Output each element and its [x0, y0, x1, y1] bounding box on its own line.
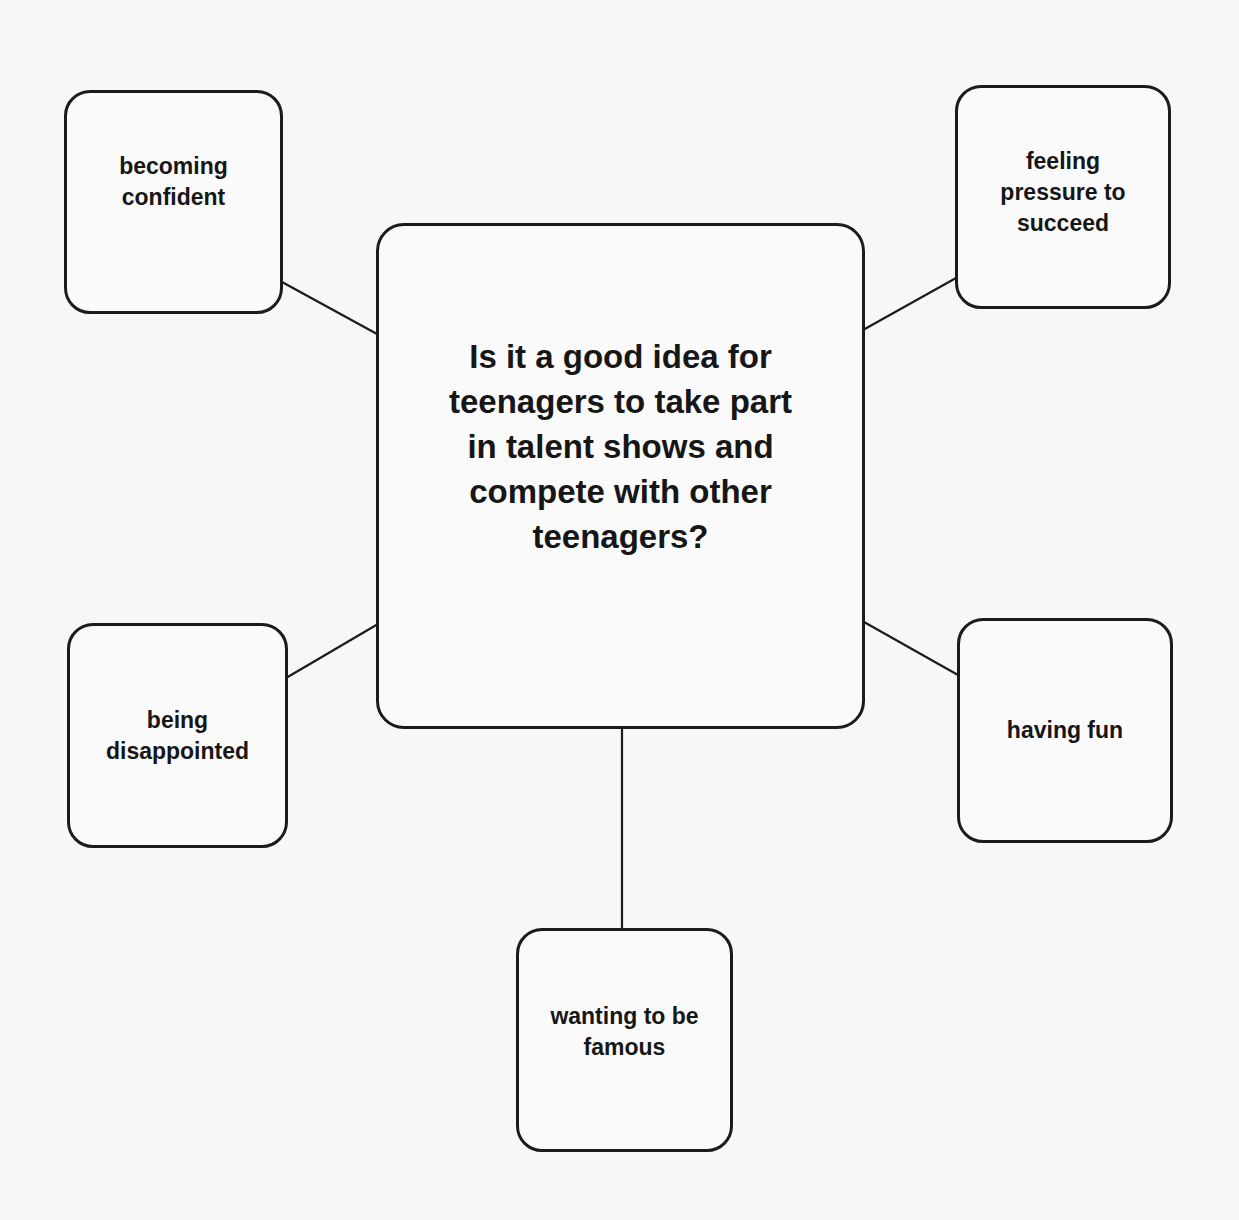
connector-top-left — [282, 282, 377, 334]
central-question-text: Is it a good idea for teenagers to take … — [449, 334, 792, 559]
node-text: wanting to be famous — [550, 1001, 698, 1063]
node-becoming-confident: becoming confident — [64, 90, 283, 314]
central-question-box: Is it a good idea for teenagers to take … — [376, 223, 865, 729]
node-text: having fun — [1007, 715, 1123, 746]
node-text: being disappointed — [106, 705, 249, 767]
node-wanting-to-be-famous: wanting to be famous — [516, 928, 733, 1152]
node-feeling-pressure: feeling pressure to succeed — [955, 85, 1171, 309]
connector-top-right — [863, 278, 956, 330]
node-being-disappointed: being disappointed — [67, 623, 288, 848]
node-text: becoming confident — [119, 151, 228, 213]
connector-mid-right — [864, 622, 958, 675]
node-text: feeling pressure to succeed — [1000, 146, 1125, 239]
connector-mid-left — [286, 624, 378, 678]
node-having-fun: having fun — [957, 618, 1173, 843]
